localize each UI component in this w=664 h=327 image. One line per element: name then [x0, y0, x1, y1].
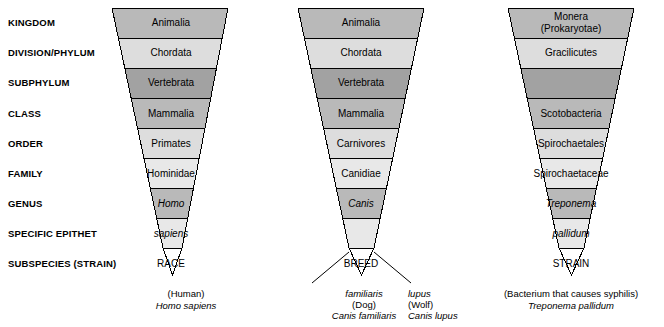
funnel-canis-wolf-caption-line1: lupus [408, 288, 431, 300]
funnel-treponema-band-family: Spirochaetaceae [533, 168, 608, 179]
funnel-human-band-genus: Homo [158, 198, 185, 209]
rank-label-subphylum: SUBPHYLUM [8, 78, 70, 88]
funnel-human-band-order: Primates [151, 138, 190, 149]
funnel-canis-band-class: Mammalia [338, 108, 384, 119]
funnel-human-band-family: Hominidae [147, 168, 195, 179]
funnel-human-band-kingdom: Animalia [152, 17, 190, 28]
funnel-canis-dog-caption-line2: (Dog) [352, 299, 376, 311]
funnel-canis-wolf-caption-line3: Canis lupus [408, 310, 458, 322]
canis-branch-line-1 [374, 252, 411, 283]
funnel-treponema-band-strain: STRAIN [553, 258, 590, 269]
funnel-canis-band-subphylum: Vertebrata [338, 77, 384, 88]
funnel-human-band-class: Mammalia [148, 108, 194, 119]
rank-label-kingdom: KINGDOM [8, 18, 55, 28]
funnel-treponema-caption-line2: Treponema pallidum [528, 300, 614, 312]
funnel-human-band-epithet: sapiens [154, 228, 188, 239]
funnel-treponema-band-order: Spirochaetales [538, 138, 604, 149]
rank-label-genus: GENUS [8, 199, 43, 209]
funnel-2-band-2 [521, 68, 622, 98]
funnel-human-caption-line1: (Human) [168, 288, 205, 300]
rank-label-division-phylum: DIVISION/PHYLUM [8, 48, 95, 58]
funnel-treponema-band-kingdom-line2: (Prokaryotae) [541, 23, 602, 34]
funnel-canis-dog-caption-line1: familiaris [345, 288, 382, 300]
rank-label-family: FAMILY [8, 169, 43, 179]
funnel-treponema-band-genus: Treponema [546, 198, 596, 209]
rank-label-specific-epithet: SPECIFIC EPITHET [8, 229, 97, 239]
funnel-canis-band-family: Canidiae [341, 168, 380, 179]
funnel-human-band-subphylum: Vertebrata [148, 77, 194, 88]
rank-label-subspecies: SUBSPECIES (STRAIN) [8, 259, 116, 269]
funnel-canis-band-order: Carnivores [337, 138, 385, 149]
funnel-canis-wolf-caption-line2: (Wolf) [408, 299, 433, 311]
funnel-canis-band-genus: Canis [348, 198, 374, 209]
funnel-canis-dog-caption-line3: Canis familiaris [332, 310, 396, 322]
funnel-treponema-band-phylum: Gracilicutes [545, 47, 597, 58]
funnel-treponema-band-class: Scotobacteria [540, 108, 601, 119]
funnel-canis-band-phylum: Chordata [340, 47, 381, 58]
funnel-1-band-7 [343, 218, 381, 248]
rank-label-order: ORDER [8, 139, 43, 149]
funnel-treponema-band-epithet: pallidum [552, 228, 589, 239]
funnel-human-band-subspecies: RACE [157, 258, 185, 269]
funnel-canis-band-kingdom: Animalia [342, 17, 380, 28]
funnel-treponema-band-kingdom-line1: Monera [554, 11, 588, 22]
funnel-human-band-phylum: Chordata [150, 47, 191, 58]
funnel-human-caption-line2: Homo sapiens [156, 300, 217, 312]
rank-label-class: CLASS [8, 109, 41, 119]
funnel-canis-band-subspecies: BREED [344, 258, 378, 269]
taxonomy-funnel-diagram: KINGDOM DIVISION/PHYLUM SUBPHYLUM CLASS … [0, 0, 664, 327]
funnel-treponema-caption-line1: (Bacterium that causes syphilis) [504, 288, 638, 300]
